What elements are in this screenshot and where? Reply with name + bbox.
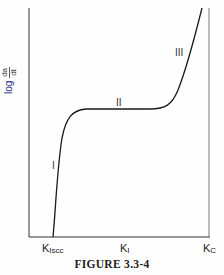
crack-growth-curve	[53, 8, 202, 237]
chart-canvas	[0, 0, 224, 275]
x-tick-kiscc-subscript: Iscc	[49, 246, 63, 255]
y-axis-fraction: da dt	[1, 67, 18, 78]
x-tick-kiscc: KIscc	[42, 242, 64, 254]
y-axis-fraction-denominator: dt	[10, 67, 18, 78]
region-label-3: III	[175, 47, 183, 58]
y-axis-label: log da dt	[1, 67, 18, 94]
y-axis-label-prefix: log	[3, 81, 14, 94]
region-label-1: I	[52, 160, 55, 171]
x-tick-ki-subscript: I	[127, 246, 129, 255]
x-tick-kc-subscript: C	[210, 246, 216, 255]
figure-caption: FIGURE 3.3-4	[0, 258, 224, 270]
region-label-2: II	[116, 97, 122, 108]
x-tick-kc: KC	[203, 242, 216, 254]
x-tick-ki: KI	[120, 242, 130, 254]
